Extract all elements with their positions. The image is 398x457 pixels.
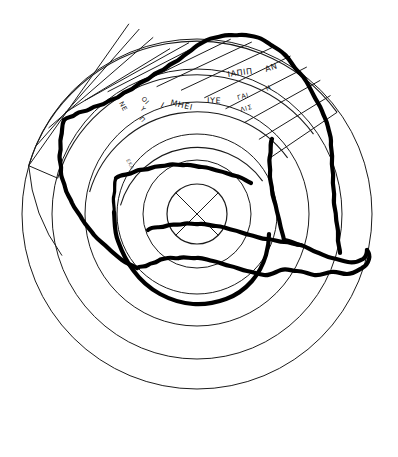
figure-root: ΙΑΠΙΠ ΑΝ ΝΕ ΟΙ Υ Π Ι ΜΗΕΙ ΙΥΕ ΓΑΙ ΛΙΣ Η … [0,0,398,457]
disc-fragment-drawing: ΙΑΠΙΠ ΑΝ ΝΕ ΟΙ Υ Π Ι ΜΗΕΙ ΙΥΕ ΓΑΙ ΛΙΣ Η … [0,0,398,457]
inscription-mid-7: ΙΥΕ [207,96,221,105]
fracture-inner-left-link [113,178,116,212]
